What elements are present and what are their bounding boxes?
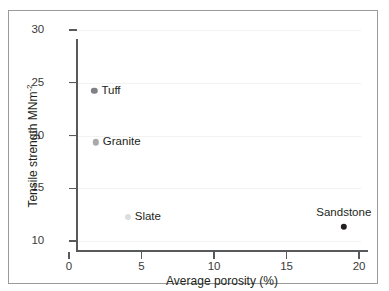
y-tick-30 bbox=[69, 29, 77, 30]
data-point-label-slate: Slate bbox=[135, 211, 161, 223]
y-tick-15 bbox=[69, 188, 77, 189]
data-point-label-tuff: Tuff bbox=[101, 85, 120, 97]
x-tick-0 bbox=[68, 252, 69, 259]
y-axis-label-base: Tensile strength MNm bbox=[26, 91, 40, 207]
marker-slate-icon bbox=[125, 214, 131, 220]
x-tick-20 bbox=[358, 252, 359, 259]
y-axis-label-exponent: -2 bbox=[25, 84, 34, 91]
y-tick-10 bbox=[69, 240, 77, 241]
figure-frame: 1015202530 05101520 TuffGraniteSlateSand… bbox=[8, 10, 378, 284]
y-axis-label: Tensile strength MNm-2 bbox=[25, 40, 41, 251]
y-tick-20 bbox=[69, 135, 77, 136]
data-point-label-granite: Granite bbox=[103, 136, 141, 148]
y-axis-label-text: Tensile strength MNm-2 bbox=[27, 84, 39, 207]
data-point-label-sandstone: Sandstone bbox=[316, 207, 371, 219]
y-tick-25 bbox=[69, 82, 77, 83]
x-tick-label-0: 0 bbox=[54, 261, 84, 273]
y-tick-label-30: 30 bbox=[31, 24, 44, 36]
x-axis-label: Average porosity (%) bbox=[77, 275, 367, 287]
x-tick-label-15: 15 bbox=[272, 261, 302, 273]
x-tick-5 bbox=[141, 252, 142, 259]
gridline-y-30 bbox=[69, 30, 361, 31]
marker-sandstone-icon bbox=[341, 224, 347, 230]
x-axis-label-text: Average porosity (%) bbox=[166, 274, 278, 288]
x-tick-label-10: 10 bbox=[199, 261, 229, 273]
x-tick-15 bbox=[286, 252, 287, 259]
x-tick-label-5: 5 bbox=[127, 261, 157, 273]
x-tick-label-20: 20 bbox=[344, 261, 374, 273]
plot-area: TuffGraniteSlateSandstone bbox=[77, 40, 367, 251]
marker-granite-icon bbox=[93, 139, 99, 145]
x-tick-10 bbox=[213, 252, 214, 259]
marker-tuff-icon bbox=[91, 87, 97, 93]
